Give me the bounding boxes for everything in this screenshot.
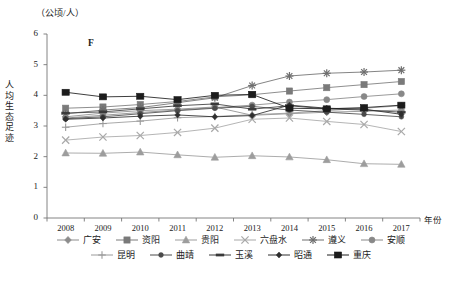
chart-legend: 广安资阳贵阳六盘水遵义安顺 昆明曲靖玉溪昭通重庆 xyxy=(0,232,461,262)
legend-row-2: 昆明曲靖玉溪昭通重庆 xyxy=(0,247,461,262)
marker-dash xyxy=(62,112,70,114)
legend-marker-asterisk-icon xyxy=(301,235,325,245)
legend-key xyxy=(360,235,384,245)
legend-marker-square-icon xyxy=(115,235,139,245)
y-tick-label: 4 xyxy=(24,89,38,99)
marker-dot xyxy=(159,252,164,257)
marker-square xyxy=(323,106,330,112)
legend-label: 遵义 xyxy=(327,233,346,246)
legend-label: 安顺 xyxy=(386,233,405,246)
marker-square xyxy=(361,82,367,88)
legend-marker-cross-icon xyxy=(233,235,257,245)
legend-key xyxy=(90,250,114,260)
marker-dash xyxy=(136,108,144,110)
marker-circle xyxy=(361,94,367,100)
legend-key xyxy=(326,250,350,260)
legend-key xyxy=(233,235,257,245)
legend-key xyxy=(56,235,80,245)
marker-dash xyxy=(99,111,107,113)
legend-item-资阳[interactable]: 资阳 xyxy=(115,233,160,246)
legend-item-昆明[interactable]: 昆明 xyxy=(90,248,135,261)
legend-label: 曲靖 xyxy=(175,248,194,261)
legend-item-曲靖[interactable]: 曲靖 xyxy=(149,248,194,261)
legend-label: 昆明 xyxy=(116,248,135,261)
marker-square xyxy=(99,94,106,100)
legend-label: 六盘水 xyxy=(259,233,287,246)
marker-dash xyxy=(174,105,182,107)
marker-square xyxy=(286,88,292,94)
legend-key xyxy=(267,250,291,260)
x-axis-title: 年份 xyxy=(424,213,442,225)
marker-dash xyxy=(211,103,219,105)
legend-marker-plus-icon xyxy=(90,250,114,260)
legend-label: 贵阳 xyxy=(200,233,219,246)
legend-item-昭通[interactable]: 昭通 xyxy=(267,248,312,261)
legend-key xyxy=(208,250,232,260)
marker-dash xyxy=(248,108,256,110)
y-tick-label: 6 xyxy=(24,28,38,38)
legend-item-重庆[interactable]: 重庆 xyxy=(326,248,371,261)
series-2 xyxy=(62,148,405,167)
marker-triangle xyxy=(137,148,144,155)
legend-marker-diamond-icon xyxy=(56,235,80,245)
marker-square xyxy=(174,97,181,103)
legend-label: 昭通 xyxy=(293,248,312,261)
marker-dot xyxy=(276,252,282,258)
legend-item-安顺[interactable]: 安顺 xyxy=(360,233,405,246)
marker-dot xyxy=(212,114,218,120)
marker-square xyxy=(62,89,69,95)
legend-marker-triangle-icon xyxy=(174,235,198,245)
marker-circle xyxy=(369,237,375,243)
marker-dot xyxy=(175,112,181,118)
legend-marker-dash-icon xyxy=(208,250,232,260)
y-tick-label: 0 xyxy=(24,212,38,222)
legend-item-玉溪[interactable]: 玉溪 xyxy=(208,248,253,261)
legend-key xyxy=(174,235,198,245)
legend-label: 重庆 xyxy=(352,248,371,261)
marker-square xyxy=(398,102,405,108)
marker-square xyxy=(249,91,256,97)
legend-key xyxy=(115,235,139,245)
y-tick-label: 5 xyxy=(24,59,38,69)
legend-key xyxy=(149,250,173,260)
legend-item-广安[interactable]: 广安 xyxy=(56,233,101,246)
series-10 xyxy=(62,89,405,112)
legend-row-1: 广安资阳贵阳六盘水遵义安顺 xyxy=(0,232,461,247)
legend-marker-dot-icon xyxy=(149,250,173,260)
legend-label: 广安 xyxy=(82,233,101,246)
series-line xyxy=(66,152,402,164)
marker-square xyxy=(324,85,330,91)
series-3 xyxy=(62,114,405,143)
legend-marker-smalldot-icon xyxy=(267,250,291,260)
legend-key xyxy=(301,235,325,245)
marker-square xyxy=(398,78,404,84)
y-tick-label: 1 xyxy=(24,181,38,191)
chart-figure: （公顷/人） F 人 均 生 态 足 迹 0123456 20082009201… xyxy=(0,0,461,284)
legend-item-六盘水[interactable]: 六盘水 xyxy=(233,233,287,246)
marker-square xyxy=(124,236,130,242)
marker-circle xyxy=(324,97,330,103)
marker-square xyxy=(286,105,293,111)
y-tick-label: 3 xyxy=(24,120,38,130)
series-line xyxy=(66,118,402,140)
marker-dash xyxy=(216,253,224,255)
marker-square xyxy=(360,105,367,111)
marker-triangle xyxy=(248,152,255,159)
legend-marker-circle-icon xyxy=(360,235,384,245)
legend-item-贵阳[interactable]: 贵阳 xyxy=(174,233,219,246)
marker-diamond xyxy=(65,236,72,243)
legend-marker-bigsquare-icon xyxy=(326,250,350,260)
marker-triangle xyxy=(62,149,69,156)
marker-square xyxy=(211,92,218,98)
legend-label: 玉溪 xyxy=(234,248,253,261)
marker-square xyxy=(334,252,341,258)
marker-circle xyxy=(398,91,404,97)
y-tick-label: 2 xyxy=(24,151,38,161)
marker-dot xyxy=(362,112,367,117)
marker-dot xyxy=(212,106,217,111)
legend-label: 资阳 xyxy=(141,233,160,246)
marker-square xyxy=(137,93,144,99)
legend-item-遵义[interactable]: 遵义 xyxy=(301,233,346,246)
